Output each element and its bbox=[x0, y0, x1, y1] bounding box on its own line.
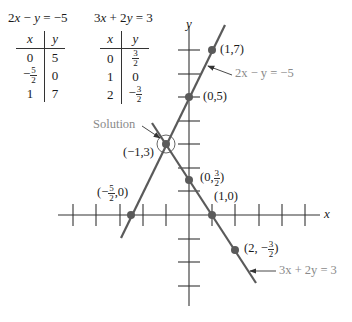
label-point-0-5: (0,5) bbox=[203, 89, 227, 104]
label-point-2-neg3half: (2, −32) bbox=[244, 240, 278, 259]
text: ) bbox=[274, 241, 278, 255]
text: ,0) bbox=[115, 185, 129, 199]
label-point-neg1-3: (−1,3) bbox=[123, 145, 154, 160]
annotation-solution: Solution bbox=[93, 117, 135, 132]
y-axis-label: y bbox=[186, 16, 192, 32]
line-2x-minus-y bbox=[121, 25, 225, 238]
annotation-line2: 3x + 2y = 3 bbox=[279, 263, 337, 278]
text: (0, bbox=[200, 170, 214, 184]
label-point-neg5half-0: (−52,0) bbox=[97, 184, 128, 203]
x-axis-label: x bbox=[324, 206, 330, 222]
text: (− bbox=[97, 185, 108, 199]
arrow-line1 bbox=[208, 66, 232, 75]
label-point-0-3half: (0,32) bbox=[200, 169, 224, 188]
annotation-line1: 2x − y = −5 bbox=[235, 66, 294, 81]
text: (2, − bbox=[244, 241, 268, 255]
label-point-1-0: (1,0) bbox=[214, 189, 238, 204]
text: ) bbox=[220, 170, 224, 184]
label-point-1-7: (1,7) bbox=[220, 42, 244, 57]
